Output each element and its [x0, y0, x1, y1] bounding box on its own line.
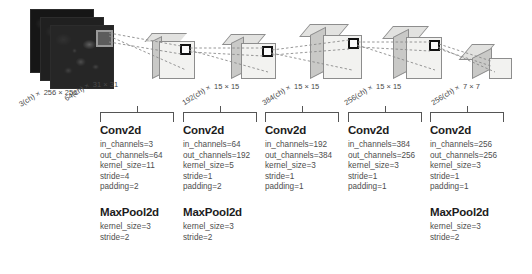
conv-param: padding=2 — [100, 182, 184, 193]
conv-param: out_channels=256 — [348, 151, 432, 162]
conv-param: padding=1 — [430, 182, 514, 193]
conv-title: Conv2d — [183, 124, 267, 137]
conv-title: Conv2d — [430, 124, 514, 137]
conv-param: in_channels=256 — [430, 140, 514, 151]
conv1-dimension-label: 64(ch) × 31 × 31 — [61, 80, 118, 89]
pool-block: MaxPool2d kernel_size=3 stride=2 — [100, 206, 184, 243]
layer-column-4: Conv2d in_channels=384 out_channels=256 … — [348, 124, 432, 193]
conv4-dimension-label: 256(ch) × 15 × 15 — [340, 82, 401, 91]
conv-param: out_channels=256 — [430, 151, 514, 162]
layer-column-2: Conv2d in_channels=64 out_channels=192 k… — [183, 124, 267, 243]
bracket-column-1 — [100, 112, 174, 122]
conv-param: stride=1 — [183, 172, 267, 183]
conv-title: Conv2d — [100, 124, 184, 137]
conv-title: Conv2d — [348, 124, 432, 137]
conv-param: in_channels=384 — [348, 140, 432, 151]
conv-param: stride=1 — [348, 172, 432, 183]
conv-param: kernel_size=3 — [348, 161, 432, 172]
conv1-spatial-label: 31 × 31 — [93, 80, 118, 89]
pool-block: MaxPool2d kernel_size=3 stride=2 — [183, 206, 267, 243]
conv-param: kernel_size=3 — [430, 161, 514, 172]
bracket-column-3 — [265, 112, 339, 122]
conv-param: out_channels=192 — [183, 151, 267, 162]
conv-param: in_channels=64 — [183, 140, 267, 151]
conv-param: padding=2 — [183, 182, 267, 193]
bracket-column-5 — [430, 112, 504, 122]
conv-param: out_channels=64 — [100, 151, 184, 162]
pool-param: kernel_size=3 — [430, 222, 514, 233]
pool-param: kernel_size=3 — [100, 222, 184, 233]
network-diagram: 3(ch) × 256 × 256 64(ch) × 31 × 31 192(c… — [0, 0, 532, 120]
pool-title: MaxPool2d — [183, 206, 267, 219]
layer-column-5: Conv2d in_channels=256 out_channels=256 … — [430, 124, 514, 243]
conv-param: kernel_size=5 — [183, 161, 267, 172]
conv5-dimension-label: 256(ch) × 7 × 7 — [427, 82, 480, 91]
bracket-column-2 — [183, 112, 257, 122]
conv-param: in_channels=3 — [100, 140, 184, 151]
conv-param: padding=1 — [265, 182, 349, 193]
conv-param: in_channels=192 — [265, 140, 349, 151]
conv-param: stride=1 — [430, 172, 514, 183]
conv-param: kernel_size=3 — [265, 161, 349, 172]
conv-param: stride=4 — [100, 172, 184, 183]
pool-title: MaxPool2d — [100, 206, 184, 219]
conv-title: Conv2d — [265, 124, 349, 137]
conv2-spatial-label: 15 × 15 — [214, 82, 239, 91]
conv-param: kernel_size=11 — [100, 161, 184, 172]
conv2-dimension-label: 192(ch) × 15 × 15 — [178, 82, 239, 91]
conv-param: stride=1 — [265, 172, 349, 183]
layer-column-1: Conv2d in_channels=3 out_channels=64 ker… — [100, 124, 184, 243]
pool-param: stride=2 — [430, 233, 514, 244]
conv-param: out_channels=384 — [265, 151, 349, 162]
conv4-spatial-label: 15 × 15 — [376, 82, 401, 91]
conv3-dimension-label: 384(ch) × 15 × 15 — [258, 82, 319, 91]
conv-param: padding=1 — [348, 182, 432, 193]
pool-title: MaxPool2d — [430, 206, 514, 219]
pool-block: MaxPool2d kernel_size=3 stride=2 — [430, 206, 514, 243]
conv5-spatial-label: 7 × 7 — [463, 82, 480, 91]
layer-column-3: Conv2d in_channels=192 out_channels=384 … — [265, 124, 349, 193]
pool-param: stride=2 — [183, 233, 267, 244]
pool-param: kernel_size=3 — [183, 222, 267, 233]
diagram-canvas: 3(ch) × 256 × 256 64(ch) × 31 × 31 192(c… — [0, 0, 532, 274]
pool-param: stride=2 — [100, 233, 184, 244]
conv3-spatial-label: 15 × 15 — [294, 82, 319, 91]
bracket-column-4 — [348, 112, 422, 122]
